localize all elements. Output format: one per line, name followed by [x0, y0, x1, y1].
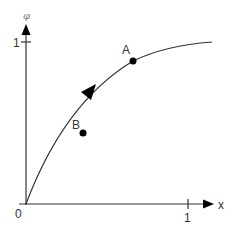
phase-diagram: φ x 0 1 1 A B: [0, 0, 235, 229]
trajectory-curve: [26, 42, 212, 204]
origin-label: 0: [15, 207, 22, 221]
y-axis-arrow-icon: [22, 24, 31, 35]
point-b: [80, 130, 87, 137]
point-a-label: A: [122, 43, 130, 57]
y-tick-label: 1: [13, 36, 20, 50]
point-b-label: B: [72, 118, 80, 132]
point-a: [130, 58, 137, 65]
x-tick-label: 1: [184, 211, 191, 225]
y-axis-label: φ: [23, 10, 30, 21]
x-axis-label: x: [218, 198, 224, 212]
x-axis-arrow-icon: [203, 200, 214, 209]
